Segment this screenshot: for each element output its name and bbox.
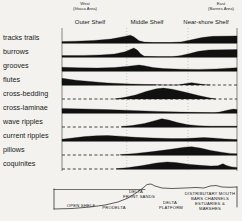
zone-header-nearshore-shelf: Near-shore Shelf xyxy=(183,19,229,25)
cross-section-label: FRONT SANDS xyxy=(123,194,155,199)
row-label-burrows: burrows xyxy=(3,47,29,56)
row-label-flutes: flutes xyxy=(3,75,21,84)
abundance-rows xyxy=(62,35,237,169)
zone-header-middle-shelf: Middle Shelf xyxy=(130,19,163,25)
abundance-envelope xyxy=(115,88,217,99)
abundance-envelope xyxy=(120,147,237,155)
abundance-envelope xyxy=(116,162,237,169)
figure-sedimentary-structures-shelf: West (Ithaca Area) East (Barnes Area) Ou… xyxy=(0,0,242,221)
row-label-current-ripples: current ripples xyxy=(3,131,49,140)
row-label-grooves: grooves xyxy=(3,61,29,70)
abundance-envelope xyxy=(122,119,238,127)
row-label-cross-bedding: cross-bedding xyxy=(3,89,48,98)
west-area-label: (Ithaca Area) xyxy=(73,6,98,11)
zone-header-outer-shelf: Outer Shelf xyxy=(75,19,106,25)
row-label-tracks-trails: tracks trails xyxy=(3,33,40,42)
abundance-envelope xyxy=(62,65,237,71)
cross-section-label: PRODELTA xyxy=(102,205,126,210)
row-label-wave-ripples: wave ripples xyxy=(2,117,43,126)
figure-canvas: West (Ithaca Area) East (Barnes Area) Ou… xyxy=(0,0,242,221)
cross-section-label: PLATFORM xyxy=(159,205,183,210)
abundance-envelope xyxy=(62,108,237,113)
cross-section-label: MARSHES xyxy=(199,206,221,211)
zone-guides xyxy=(62,28,237,171)
east-area-label: (Barnes Area) xyxy=(208,6,234,11)
row-label-coquinites: coquinites xyxy=(3,159,36,168)
abundance-envelope xyxy=(62,78,211,85)
row-label-cross-laminae: cross-laminae xyxy=(3,103,48,112)
row-label-pillows: pillows xyxy=(3,145,25,154)
cross-section-label: OPEN SHELF xyxy=(67,203,96,208)
abundance-envelope xyxy=(62,35,237,43)
abundance-envelope xyxy=(62,48,237,57)
cross-section-labels: OPEN SHELFPRODELTADELTAFRONT SANDSDELTAP… xyxy=(67,189,235,211)
abundance-envelope xyxy=(62,136,237,142)
